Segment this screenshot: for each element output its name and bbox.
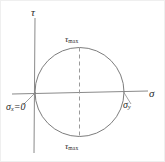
sigma-y-subscript: y — [128, 103, 131, 110]
tau-max-bottom-subscript: max — [68, 145, 78, 151]
sigma-x-label: σx=0 — [6, 102, 25, 113]
tau-max-bottom-label: τmax — [65, 142, 78, 152]
tau-max-top-label: τmax — [65, 35, 78, 45]
tau-axis-label: τ — [31, 7, 35, 18]
tau-axis-line — [34, 18, 35, 153]
tau-max-top-subscript: max — [68, 38, 78, 44]
sigma-axis-label: σ — [149, 88, 154, 99]
mohrs-circle-figure: τ σ τmax τmax σx=0 σy — [0, 0, 165, 162]
sigma-y-label: σy — [123, 100, 131, 111]
mohrs-circle-canvas — [1, 1, 165, 162]
sigma-x-value: =0 — [14, 101, 26, 112]
